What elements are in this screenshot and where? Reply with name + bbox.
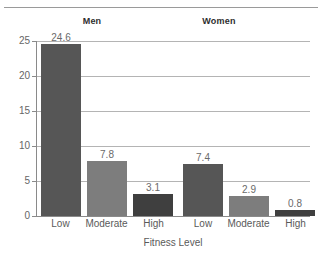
y-tick-mark-15 <box>32 111 36 112</box>
bar-value-men-moderate: 7.8 <box>100 149 114 160</box>
y-tick-mark-0 <box>32 216 36 217</box>
y-tick-label-0: 0 <box>2 211 30 221</box>
group-title-men: Men <box>62 16 122 26</box>
x-axis-title: Fitness Level <box>36 238 310 248</box>
y-tick-label-25: 25 <box>2 36 30 46</box>
y-tick-label-5: 5 <box>2 176 30 186</box>
bar-men-low: 24.6 <box>41 44 81 216</box>
y-tick-mark-20 <box>32 76 36 77</box>
bar-value-women-low: 7.4 <box>196 152 210 163</box>
bar-men-moderate: 7.8 <box>87 161 127 216</box>
x-label-men-low: Low <box>36 219 85 229</box>
y-tick-label-20: 20 <box>2 71 30 81</box>
bar-women-low: 7.4 <box>183 164 223 216</box>
x-label-men-high: High <box>133 219 174 229</box>
x-label-women-low: Low <box>179 219 227 229</box>
y-tick-mark-5 <box>32 181 36 182</box>
page-top-rule <box>4 7 318 8</box>
bar-men-high: 3.1 <box>133 194 173 216</box>
plot-area: 25 20 15 10 5 0 24.6 7.8 <box>36 36 310 221</box>
x-label-women-high: High <box>275 219 316 229</box>
bars-layer: 24.6 7.8 3.1 7.4 2.9 0.8 <box>37 36 310 216</box>
group-title-women: Women <box>184 16 254 26</box>
bar-value-men-high: 3.1 <box>146 182 160 193</box>
y-tick-label-15: 15 <box>2 106 30 116</box>
x-label-women-moderate: Moderate <box>221 219 276 229</box>
x-axis-baseline <box>36 216 310 217</box>
x-label-men-moderate: Moderate <box>79 219 134 229</box>
bar-women-high: 0.8 <box>275 210 315 216</box>
y-tick-mark-10 <box>32 146 36 147</box>
bar-value-women-moderate: 2.9 <box>242 184 256 195</box>
bar-women-moderate: 2.9 <box>229 196 269 216</box>
y-tick-mark-25 <box>32 41 36 42</box>
bar-value-women-high: 0.8 <box>288 198 302 209</box>
y-tick-label-10: 10 <box>2 141 30 151</box>
bar-chart-figure: Men Women 25 20 15 10 5 <box>0 0 322 260</box>
bar-value-men-low: 24.6 <box>51 32 70 43</box>
